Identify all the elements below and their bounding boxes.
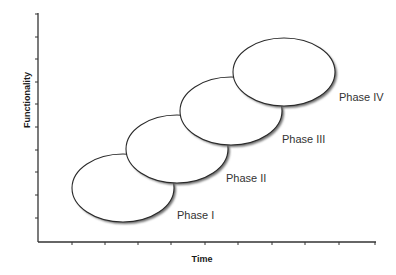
phase-3-label: Phase III bbox=[282, 133, 325, 145]
y-axis bbox=[35, 13, 38, 242]
x-axis bbox=[38, 242, 376, 245]
phase-diagram: Time Functionality Phase I Phase II Phas… bbox=[0, 0, 396, 275]
phase-1-label: Phase I bbox=[177, 209, 214, 221]
x-axis-label: Time bbox=[192, 254, 213, 264]
phase-4-label: Phase IV bbox=[339, 91, 384, 103]
phase-2-label: Phase II bbox=[226, 172, 266, 184]
y-axis-label: Functionality bbox=[22, 72, 32, 128]
